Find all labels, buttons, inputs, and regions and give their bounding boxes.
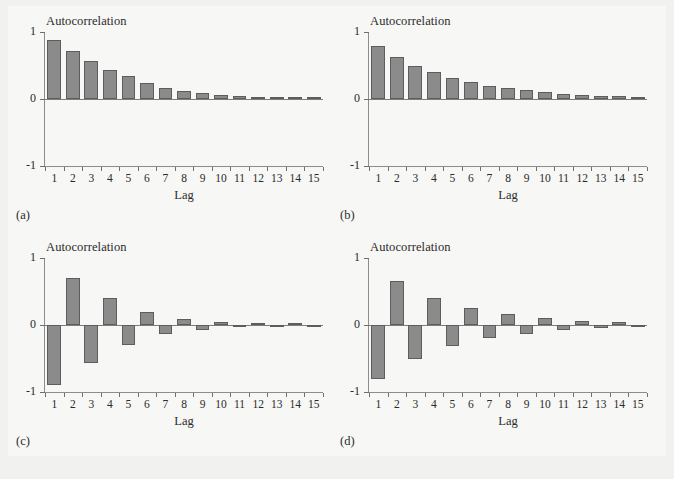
x-axis-tick [230,167,231,171]
acf-bar [538,92,552,99]
acf-bar [483,325,497,338]
x-axis-tick [536,167,537,171]
y-axis-tick-label: 1 [16,250,36,265]
acf-bar [501,88,515,99]
acf-bar [612,96,626,99]
acf-bar [177,91,191,99]
x-axis-tick [536,393,537,397]
y-axis-title: Autocorrelation [370,240,451,255]
acf-bar [288,97,302,99]
y-axis-tick-label: 0 [340,317,360,332]
panel-label-a: (a) [16,208,30,223]
y-axis-tick-label: 1 [16,24,36,39]
x-axis-tick [369,167,370,171]
y-axis-tick-label: -1 [340,158,360,173]
acf-bar [612,322,626,325]
acf-bar [66,278,80,325]
acf-bar [464,82,478,99]
x-axis-tick [119,167,120,171]
acf-bar [520,90,534,99]
plot-area [45,32,323,166]
x-axis-tick [499,167,500,171]
x-axis-tick [628,393,629,397]
acf-bar [233,325,247,327]
acf-bar [427,72,441,99]
y-axis-tick-label: -1 [340,384,360,399]
acf-bar [483,86,497,99]
x-axis-tick-label: 15 [303,398,325,410]
x-axis-tick [249,393,250,397]
x-axis-tick [499,393,500,397]
y-axis-tick-label: 1 [340,24,360,39]
x-axis-tick [193,167,194,171]
x-axis-tick [462,167,463,171]
acf-bar [594,325,608,328]
acf-bar [214,95,228,99]
x-axis-tick [175,167,176,171]
acf-bar [177,319,191,325]
acf-bar [501,314,515,325]
acf-bar [103,70,117,99]
x-axis-tick [554,167,555,171]
acf-bar [520,325,534,334]
acf-bar [631,97,645,99]
x-axis-tick [554,393,555,397]
x-axis-tick [249,167,250,171]
x-axis-title: Lag [154,188,214,203]
x-axis-tick [647,167,648,171]
acf-bar [84,61,98,99]
x-axis-tick [212,393,213,397]
plot-area [369,32,647,166]
x-axis-tick [591,167,592,171]
x-axis-tick [82,393,83,397]
acf-bar [251,97,265,99]
x-axis-tick [119,393,120,397]
panel-label-c: (c) [16,434,30,449]
plot-area [45,258,323,392]
x-axis-tick [156,167,157,171]
x-axis-tick [443,393,444,397]
plot-area [369,258,647,392]
y-axis-tick-label: 1 [340,250,360,265]
x-axis-tick [369,393,370,397]
x-axis-tick [443,167,444,171]
acf-bar [371,325,385,379]
x-axis-tick [517,167,518,171]
x-axis-title: Lag [478,414,538,429]
x-axis-tick [406,167,407,171]
acf-bar [140,83,154,99]
x-axis-tick [480,167,481,171]
panel-label-d: (d) [340,434,355,449]
x-axis-tick [267,393,268,397]
x-axis-tick [425,393,426,397]
acf-bar [575,95,589,99]
acf-bar [538,318,552,325]
x-axis-tick [406,393,407,397]
acf-bar [233,96,247,99]
x-axis-tick [610,393,611,397]
acf-bar [307,325,321,327]
x-axis-title: Lag [478,188,538,203]
x-axis-tick [480,393,481,397]
acf-bar [594,96,608,99]
acf-bar [196,325,210,330]
acf-bar [464,308,478,325]
x-axis-tick [101,393,102,397]
acf-bar [214,322,228,325]
acf-bar [631,325,645,327]
x-axis-tick [101,167,102,171]
y-axis-tick-label: -1 [16,158,36,173]
y-axis-tick-label: 0 [16,317,36,332]
zero-line [45,99,323,100]
x-axis-tick [82,167,83,171]
x-axis-tick [425,167,426,171]
x-axis-tick-label: 15 [627,172,649,184]
acf-bar [307,97,321,99]
x-axis-tick [156,393,157,397]
x-axis-line [45,392,323,393]
acf-bar [575,321,589,325]
acf-bar [390,57,404,99]
x-axis-tick [388,393,389,397]
acf-bar [427,298,441,325]
x-axis-tick [591,393,592,397]
